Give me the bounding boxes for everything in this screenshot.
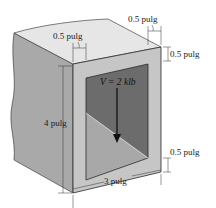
- dim-right-bottom: [163, 158, 171, 172]
- force-label: V = 2 klb: [100, 77, 136, 87]
- box-beam-diagram: V = 2 klb 0.5 pulg 0.5 pulg 0.5 pulg 0.5…: [0, 0, 216, 208]
- label-width: 3 pulg: [104, 176, 127, 186]
- label-height: 4 pulg: [44, 118, 67, 128]
- label-right-top: 0.5 pulg: [170, 49, 200, 59]
- label-top-wall-right: 0.5 pulg: [128, 14, 158, 24]
- label-top-wall-left: 0.5 pulg: [53, 31, 83, 41]
- label-right-bottom: 0.5 pulg: [170, 147, 200, 157]
